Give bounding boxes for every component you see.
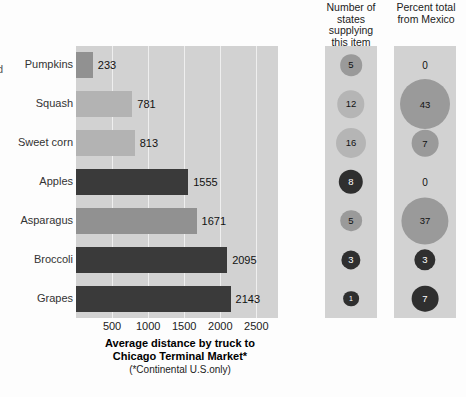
bubble-slot: 8 — [325, 169, 377, 195]
bubble-value-states: 1 — [349, 295, 353, 302]
bar-row: 781 — [76, 91, 278, 117]
bubble-panel-header-line: Number of — [318, 2, 384, 14]
bubble-states: 16 — [336, 128, 366, 158]
bubble-value-mexico: 0 — [422, 60, 428, 71]
bubble-value-mexico: 0 — [422, 177, 428, 188]
bubble-slot: 37 — [394, 208, 456, 234]
bubble-states: 5 — [340, 210, 362, 232]
bar-row: 1555 — [76, 169, 278, 195]
bubble-slot: 7 — [394, 130, 456, 156]
bubble-slot: 0 — [394, 52, 456, 78]
x-axis-subtitle: (*Continental U.S.only) — [60, 364, 300, 375]
bubble-value-mexico: 7 — [422, 138, 427, 148]
category-label-asparagus: Asparagus — [1, 214, 73, 226]
bubble-mexico: 7 — [412, 285, 439, 312]
bar-row: 233 — [76, 52, 278, 78]
bubble-value-states: 5 — [348, 216, 353, 226]
bubble-mexico: 3 — [414, 249, 435, 270]
bubble-value-states: 3 — [348, 255, 353, 265]
bar-grapes — [76, 286, 231, 312]
bar-value-label: 1671 — [197, 215, 226, 227]
bar-rows: 2337818131555167120952143 — [76, 46, 278, 318]
bubble-mexico: 37 — [401, 197, 448, 244]
bubble-column-states: 512168531 — [325, 46, 377, 318]
bubble-value-states: 8 — [348, 177, 353, 187]
bubble-states: 3 — [341, 250, 360, 269]
bar-sweet-corn — [76, 130, 135, 156]
bubble-value-mexico: 7 — [422, 294, 427, 304]
x-axis-title-line: Chicago Terminal Market* — [60, 350, 300, 363]
bubble-value-mexico: 43 — [420, 100, 431, 110]
bar-squash — [76, 91, 132, 117]
category-label-column: PumpkinsSquashSweet cornApplesAsparagusB… — [0, 46, 73, 318]
bar-value-label: 2095 — [227, 254, 256, 266]
bubble-value-states: 12 — [346, 100, 357, 110]
bar-row: 2143 — [76, 286, 278, 312]
bubble-states: 5 — [340, 55, 362, 77]
bubble-slot: 5 — [325, 52, 377, 78]
bubble-slot: 43 — [394, 91, 456, 117]
bubble-mexico: 7 — [412, 130, 439, 157]
bar-broccoli — [76, 247, 227, 273]
bubble-value-states: 5 — [348, 61, 353, 71]
bubble-slot: 3 — [394, 247, 456, 273]
bubble-value-mexico: 37 — [420, 216, 431, 226]
x-axis-title: Average distance by truck toChicago Term… — [60, 337, 300, 362]
bar-apples — [76, 169, 188, 195]
bubble-slot: 16 — [325, 130, 377, 156]
bar-row: 2095 — [76, 247, 278, 273]
chart-root: d PumpkinsSquashSweet cornApplesAsparagu… — [0, 0, 466, 397]
category-label-sweet-corn: Sweet corn — [1, 136, 73, 148]
bar-value-label: 2143 — [231, 293, 260, 305]
bubble-panel-header-line: supplying — [318, 25, 384, 37]
category-label-pumpkins: Pumpkins — [1, 58, 73, 70]
bubble-slot: 7 — [394, 286, 456, 312]
bubble-mexico: 43 — [400, 79, 450, 129]
bar-value-label: 233 — [93, 59, 116, 71]
bubble-slot: 5 — [325, 208, 377, 234]
bubble-slot: 0 — [394, 169, 456, 195]
bar-pumpkins — [76, 52, 93, 78]
x-tick-2000: 2000 — [208, 320, 232, 332]
category-label-broccoli: Broccoli — [1, 253, 73, 265]
category-label-apples: Apples — [1, 175, 73, 187]
bubble-states: 1 — [343, 291, 359, 307]
bar-row: 1671 — [76, 208, 278, 234]
x-axis-ticks: 5001000150020002500 — [76, 320, 278, 334]
bubble-slot: 3 — [325, 247, 377, 273]
bubble-panel-header-states: Number ofstatessupplyingthis item — [318, 2, 384, 48]
x-tick-1000: 1000 — [136, 320, 160, 332]
bar-row: 813 — [76, 130, 278, 156]
bubble-value-mexico: 3 — [422, 255, 427, 265]
bar-value-label: 781 — [132, 98, 155, 110]
bubble-states: 12 — [337, 91, 364, 118]
bubble-panel-header-line: from Mexico — [388, 14, 464, 26]
bar-value-label: 1555 — [188, 176, 217, 188]
x-axis-title-line: Average distance by truck to — [60, 337, 300, 350]
bubble-states: 8 — [339, 170, 363, 194]
category-label-grapes: Grapes — [1, 292, 73, 304]
bubble-slot: 12 — [325, 91, 377, 117]
x-tick-1500: 1500 — [172, 320, 196, 332]
bar-value-label: 813 — [135, 137, 158, 149]
bubble-value-states: 16 — [346, 138, 357, 148]
category-label-squash: Squash — [1, 97, 73, 109]
bubble-slot: 1 — [325, 286, 377, 312]
x-tick-2500: 2500 — [244, 320, 268, 332]
bubble-panel-header-line: Percent total — [388, 2, 464, 14]
bubble-panel-header-mexico: Percent totalfrom Mexico — [388, 2, 464, 25]
bubble-column-mexico: 043703737 — [394, 46, 456, 318]
x-tick-500: 500 — [103, 320, 121, 332]
bar-asparagus — [76, 208, 197, 234]
bar-chart-panel: 2337818131555167120952143 — [76, 46, 278, 318]
